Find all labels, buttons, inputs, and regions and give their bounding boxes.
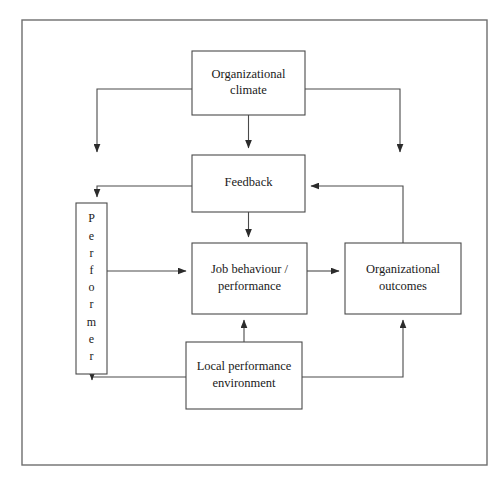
node-label-local-performance-environment: environment	[212, 376, 276, 390]
node-label-letter: r	[90, 246, 94, 260]
node-label-letter: e	[89, 332, 94, 346]
node-label-feedback: Feedback	[225, 175, 274, 189]
edge-feedback-to-performer	[97, 186, 192, 197]
node-label-letter: m	[87, 315, 97, 329]
node-label-organizational-climate: Organizational	[211, 67, 286, 81]
node-label-letter: P	[88, 211, 95, 225]
node-label-letter: o	[89, 280, 95, 294]
edge-local-env-to-outcomes	[302, 320, 403, 377]
node-label-organizational-outcomes: outcomes	[379, 279, 427, 293]
node-label-job-behaviour-performance: Job behaviour /	[211, 262, 289, 276]
node-feedback[interactable]: Feedback	[192, 155, 305, 212]
node-local-performance-environment[interactable]: Local performanceenvironment	[186, 342, 302, 409]
node-label-organizational-climate: climate	[230, 83, 267, 97]
edge-outcomes-to-feedback	[311, 186, 403, 243]
node-organizational-climate[interactable]: Organizationalclimate	[192, 51, 305, 115]
node-label-job-behaviour-performance: performance	[218, 279, 282, 293]
edge-climate-right-branch-down	[305, 89, 400, 152]
edge-climate-left-branch-down	[97, 89, 192, 152]
node-label-organizational-outcomes: Organizational	[366, 262, 441, 276]
node-label-letter: r	[90, 297, 94, 311]
node-label-letter: r	[90, 349, 94, 363]
node-performer[interactable]: Performer	[76, 203, 107, 374]
node-label-letter: f	[90, 263, 94, 277]
diagram-canvas: OrganizationalclimateFeedbackPerformerJo…	[0, 0, 504, 489]
edges-layer	[92, 89, 403, 380]
edge-local-env-to-performer	[92, 377, 186, 380]
node-job-behaviour-performance[interactable]: Job behaviour /performance	[192, 243, 307, 314]
flow-diagram: OrganizationalclimateFeedbackPerformerJo…	[0, 0, 504, 489]
node-organizational-outcomes[interactable]: Organizationaloutcomes	[345, 243, 461, 314]
node-label-local-performance-environment: Local performance	[197, 359, 292, 373]
node-label-letter: e	[89, 229, 94, 243]
